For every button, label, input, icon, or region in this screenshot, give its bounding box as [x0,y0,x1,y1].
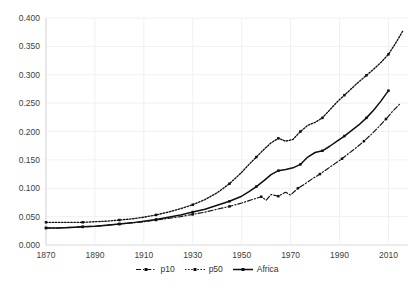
x-tick-label: 1870 [37,250,56,260]
data-point [192,203,195,206]
legend-swatch-africa [232,265,254,274]
data-point [118,219,121,222]
x-axis-ticks: 18701890191019301950197019902010 [37,250,399,260]
data-point [277,137,280,140]
y-tick-label: 0.400 [19,13,41,23]
series-p10 [45,103,401,229]
data-point [255,156,258,159]
chart-legend: p10p50Africa [0,262,414,276]
data-point [228,182,231,185]
series-africa [45,89,390,229]
y-tick-label: 0.000 [19,240,41,250]
data-point [260,196,263,199]
data-point [155,214,158,217]
data-point [81,221,84,224]
y-tick-label: 0.350 [19,41,41,51]
data-point [343,94,346,97]
y-tick-label: 0.100 [19,183,41,193]
data-point [387,89,390,92]
series-p50 [45,30,403,223]
data-point [321,117,324,120]
data-point [192,211,195,214]
legend-item-p10[interactable]: p10 [135,265,174,274]
data-point [299,163,302,166]
data-point [277,195,280,198]
series-path [46,30,403,222]
legend-swatch-p50 [184,265,206,274]
figure-caption [8,279,308,290]
y-tick-label: 0.050 [19,212,41,222]
data-point [341,157,344,160]
y-tick-label: 0.250 [19,98,41,108]
legend-label: p10 [160,265,174,274]
data-point [343,135,346,138]
data-point [45,221,48,224]
figure-container: 0.0000.0500.1000.1500.2000.2500.3000.350… [0,0,414,290]
x-tick-label: 1950 [232,250,251,260]
data-point [45,227,48,230]
data-point [277,169,280,172]
y-axis-ticks: 0.0000.0500.1000.1500.2000.2500.3000.350… [19,13,41,250]
x-tick-label: 1990 [330,250,349,260]
legend-label: p50 [209,265,223,274]
legend-label: Africa [257,265,279,274]
legend-swatch-p10 [135,265,157,274]
line-chart: 0.0000.0500.1000.1500.2000.2500.3000.350… [0,0,414,290]
data-point [297,187,300,190]
x-tick-label: 1970 [281,250,300,260]
x-tick-label: 1890 [85,250,104,260]
series-path [46,91,388,228]
y-tick-label: 0.150 [19,155,41,165]
data-point [255,185,258,188]
x-tick-label: 2010 [379,250,398,260]
y-tick-label: 0.200 [19,127,41,137]
data-point [118,223,121,226]
data-point [387,53,390,56]
data-point [319,173,322,176]
series-path [46,103,401,228]
data-point [299,130,302,133]
data-point [321,150,324,153]
data-point [385,118,388,121]
x-tick-label: 1910 [134,250,153,260]
y-tick-label: 0.300 [19,70,41,80]
data-point [81,226,84,229]
data-point [228,200,231,203]
data-point [365,74,368,77]
legend-item-africa[interactable]: Africa [232,265,279,274]
data-point [155,218,158,221]
legend-item-p50[interactable]: p50 [184,265,223,274]
data-point [363,140,366,143]
gridlines [46,18,408,245]
data-point [192,213,195,216]
x-tick-label: 1930 [183,250,202,260]
series-layer [45,30,403,229]
data-point [228,205,231,208]
data-point [365,117,368,120]
